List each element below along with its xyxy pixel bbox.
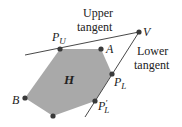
point-bottom <box>50 113 55 118</box>
label-pu: PU <box>51 30 66 46</box>
point-b <box>22 95 27 100</box>
point-pl-prime <box>92 98 97 103</box>
lower-tangent-label-1: Lower <box>137 44 168 58</box>
lower-tangent-label-2: tangent <box>134 58 170 72</box>
label-pl: PL <box>113 75 126 91</box>
label-hull-h: H <box>63 72 75 87</box>
point-pu <box>57 46 62 51</box>
label-pl-prime: P′L <box>97 98 109 115</box>
upper-tangent-label-2: tangent <box>77 20 113 34</box>
upper-tangent-label-1: Upper <box>83 6 113 20</box>
label-v: V <box>143 25 152 39</box>
label-b: B <box>12 93 20 107</box>
convex-hull-tangent-diagram: Upper tangent Lower tangent V A B H PU P… <box>0 0 182 127</box>
label-a: A <box>105 42 114 56</box>
point-v <box>136 29 141 34</box>
point-a <box>98 46 103 51</box>
